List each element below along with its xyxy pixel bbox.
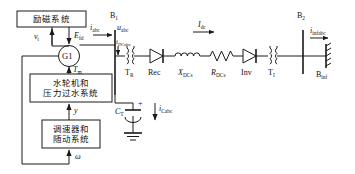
rdcs-label: RDCs — [211, 68, 225, 77]
turbine-system-label-line1: 水轮机和 — [30, 78, 112, 88]
transformer-ti — [270, 46, 277, 64]
transformer-tr-label: TR — [125, 68, 134, 77]
bus-b1-label: B1 — [110, 11, 118, 20]
infinite-bus-binf — [326, 43, 331, 68]
y-label: y — [74, 106, 78, 115]
generator-label: G1 — [62, 51, 72, 61]
vt-label: vt — [34, 32, 39, 41]
governor-system-label-line1: 调速器和 — [42, 124, 100, 134]
ground-symbol — [124, 133, 142, 140]
efd-label: Efd — [74, 31, 83, 40]
excitation-system-label: 励磁系统 — [17, 14, 86, 24]
dc-reactor-xdcs — [175, 53, 200, 56]
power-system-diagram: 励磁系统 水轮机和 压力过水系统 调速器和 随动系统 G1 vt Efd Tm … — [0, 0, 355, 174]
governor-system-label-line2: 随动系统 — [42, 134, 100, 144]
capacitor-polarity-label: + — [138, 99, 143, 108]
iinfabc-label: iinfabc — [310, 26, 326, 35]
uabc-label: uabc — [117, 23, 128, 32]
dc-resistor-rdcs — [210, 51, 233, 61]
omega-label: ω — [75, 152, 81, 161]
transformer-tr — [127, 46, 134, 64]
iabc-label: iabc — [90, 23, 100, 32]
vt-feedback-path — [52, 27, 115, 45]
tm-label: Tm — [73, 65, 82, 74]
idc-label: Idc — [198, 20, 206, 29]
bus-binf-label: Binf — [316, 70, 327, 79]
rectifier-rec — [150, 49, 163, 63]
icabc-label: iCabc — [159, 104, 172, 113]
rectifier-label: Rec — [148, 68, 160, 77]
transformer-ti-label: TI — [268, 68, 275, 77]
xdcs-label: XDCs — [178, 68, 192, 77]
inverter-label: Inv — [241, 68, 252, 77]
inverter-inv — [243, 49, 256, 63]
idcabc-label: iDCabc — [116, 38, 131, 46]
bus-b2-label: B2 — [297, 11, 305, 20]
turbine-system-label-line2: 压力过水系统 — [30, 88, 112, 98]
capacitor-ct-label: CT — [115, 107, 124, 116]
